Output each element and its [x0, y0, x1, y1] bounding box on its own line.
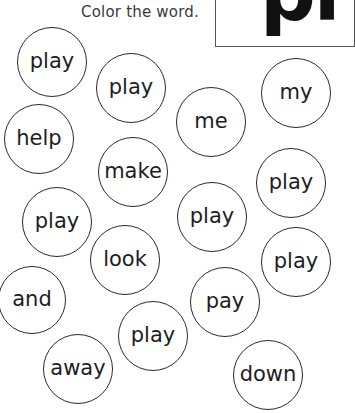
target-word-box: pl	[215, 0, 355, 47]
bubble-word: make	[104, 159, 162, 183]
word-bubble-look[interactable]: look	[90, 225, 160, 295]
bubble-word: play	[274, 249, 318, 273]
word-bubble-play[interactable]: play	[118, 301, 188, 371]
bubble-word: play	[35, 209, 79, 233]
word-bubble-down[interactable]: down	[233, 340, 303, 410]
word-bubble-play[interactable]: play	[256, 148, 326, 218]
bubble-word: me	[194, 109, 227, 133]
bubble-word: play	[30, 49, 74, 73]
bubble-word: down	[240, 362, 297, 386]
instruction-text: Color the word.	[81, 3, 199, 21]
word-bubble-play[interactable]: play	[22, 187, 92, 257]
word-bubble-play[interactable]: play	[17, 27, 87, 97]
bubble-word: play	[269, 170, 313, 194]
bubble-word: pay	[206, 289, 245, 313]
word-bubble-pay[interactable]: pay	[190, 267, 260, 337]
word-bubble-make[interactable]: make	[98, 137, 168, 207]
bubble-word: play	[131, 323, 175, 347]
bubble-word: and	[12, 287, 52, 311]
bubble-word: play	[109, 75, 153, 99]
word-bubble-and[interactable]: and	[0, 266, 66, 334]
bubble-word: play	[190, 204, 234, 228]
bubble-word: look	[103, 247, 147, 271]
word-bubble-play[interactable]: play	[96, 53, 166, 123]
bubble-word: away	[50, 356, 105, 380]
target-word-text: pl	[260, 0, 339, 32]
word-bubble-help[interactable]: help	[4, 104, 74, 174]
word-bubble-play[interactable]: play	[177, 182, 247, 252]
bubble-word: my	[280, 80, 313, 104]
word-bubble-play[interactable]: play	[261, 227, 331, 297]
word-bubble-my[interactable]: my	[261, 58, 331, 128]
bubble-word: help	[16, 126, 61, 150]
word-bubble-me[interactable]: me	[176, 87, 246, 157]
word-bubble-away[interactable]: away	[43, 334, 113, 404]
